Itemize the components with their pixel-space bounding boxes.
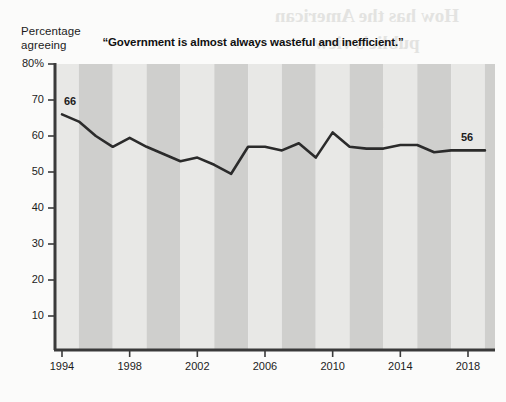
- x-axis-tick-label: 1998: [106, 360, 154, 372]
- y-axis-tick-label: 20: [10, 273, 44, 285]
- y-axis-tick-label: 60: [10, 129, 44, 141]
- background-band: [417, 64, 451, 350]
- x-axis-tick-label: 2006: [241, 360, 289, 372]
- end-value-label: 56: [461, 131, 473, 143]
- plot-area: 80%70605040302010 1994199820022006201020…: [0, 0, 506, 402]
- background-band: [451, 64, 485, 350]
- start-value-label: 66: [64, 95, 76, 107]
- background-band: [485, 64, 495, 350]
- x-axis-tick-label: 2002: [173, 360, 221, 372]
- x-axis-tick-label: 2014: [376, 360, 424, 372]
- y-axis-tick-labels: 80%70605040302010: [8, 0, 44, 402]
- background-band: [79, 64, 113, 350]
- x-axis-tick-labels: 1994199820022006201020142018: [0, 360, 506, 380]
- plot-svg: [0, 0, 506, 402]
- x-axis-tick-label: 2018: [444, 360, 492, 372]
- background-band: [383, 64, 417, 350]
- y-axis-tick-label: 80%: [10, 57, 44, 69]
- background-band: [147, 64, 181, 350]
- background-band: [350, 64, 384, 350]
- y-axis-tick-label: 40: [10, 201, 44, 213]
- background-bands: [55, 64, 495, 350]
- y-axis-tick-label: 70: [10, 93, 44, 105]
- background-band: [180, 64, 214, 350]
- y-axis-tick-label: 30: [10, 237, 44, 249]
- chart-figure: How has the American public's view Trust…: [0, 0, 506, 402]
- background-band: [282, 64, 316, 350]
- x-axis-tick-label: 2010: [309, 360, 357, 372]
- background-band: [113, 64, 147, 350]
- background-band: [316, 64, 350, 350]
- y-axis-tick-label: 10: [10, 309, 44, 321]
- x-axis-tick-label: 1994: [38, 360, 86, 372]
- background-band: [214, 64, 248, 350]
- y-axis-tick-label: 50: [10, 165, 44, 177]
- background-band: [248, 64, 282, 350]
